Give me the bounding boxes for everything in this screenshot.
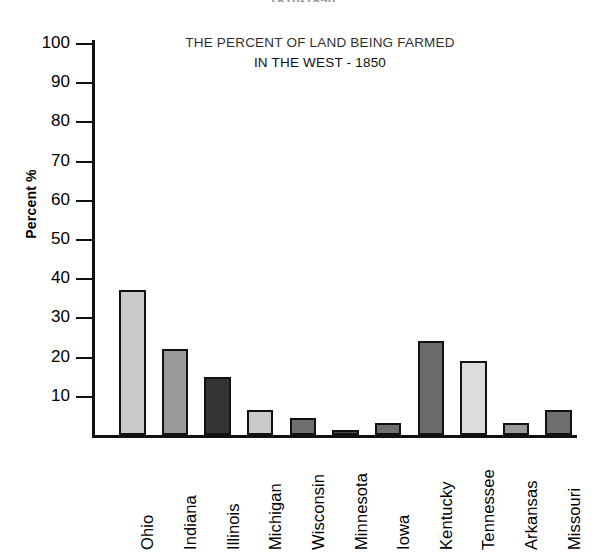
y-tick-label-50: 50 [26, 229, 70, 249]
y-tick-90: 90 [76, 82, 92, 84]
x-label-kentucky: Kentucky [437, 481, 456, 550]
bar-slot [111, 40, 154, 435]
y-tick-80: 80 [76, 121, 92, 123]
y-tick-label-20: 20 [26, 347, 70, 367]
cropped-top-header: 1810-1850 [0, 0, 605, 2]
y-tick-60: 60 [76, 200, 92, 202]
bar-slot [367, 40, 410, 435]
bar-series [95, 40, 577, 435]
y-tick-label-10: 10 [26, 386, 70, 406]
bar-michigan[interactable] [247, 410, 273, 435]
x-axis-line [92, 435, 577, 438]
y-tick-50: 50 [76, 239, 92, 241]
x-label-ohio: Ohio [138, 515, 157, 550]
bar-illinois[interactable] [204, 377, 230, 435]
bar-indiana[interactable] [162, 349, 188, 435]
y-tick-label-30: 30 [26, 307, 70, 327]
y-tick-label-40: 40 [26, 268, 70, 288]
plot-area: 102030405060708090100 [92, 40, 577, 438]
bar-missouri[interactable] [545, 410, 571, 435]
chart-figure: 1810-1850 THE PERCENT OF LAND BEING FARM… [0, 0, 605, 560]
y-tick-label-90: 90 [26, 72, 70, 92]
x-label-michigan: Michigan [266, 483, 285, 550]
x-axis-category-labels: OhioIndianaIllinoisMichiganWisconsinMinn… [95, 444, 580, 556]
x-label-missouri: Missouri [565, 488, 584, 550]
y-tick-label-80: 80 [26, 111, 70, 131]
y-tick-label-60: 60 [26, 190, 70, 210]
bar-slot [537, 40, 580, 435]
bar-wisconsin[interactable] [290, 418, 316, 435]
y-tick-20: 20 [76, 357, 92, 359]
x-label-tennessee: Tennessee [479, 469, 498, 550]
bar-minnesota[interactable] [332, 430, 358, 435]
bar-tennessee[interactable] [460, 361, 486, 435]
bar-slot [154, 40, 197, 435]
y-tick-label-100: 100 [26, 33, 70, 53]
y-tick-40: 40 [76, 278, 92, 280]
x-label-wisconsin: Wisconsin [309, 474, 328, 550]
y-tick-label-70: 70 [26, 151, 70, 171]
y-tick-30: 30 [76, 317, 92, 319]
bar-slot [495, 40, 538, 435]
bar-arkansas[interactable] [503, 423, 529, 435]
bar-ohio[interactable] [119, 290, 145, 435]
bar-kentucky[interactable] [418, 341, 444, 435]
bar-slot [239, 40, 282, 435]
x-label-arkansas: Arkansas [522, 480, 541, 550]
y-tick-10: 10 [76, 396, 92, 398]
bar-iowa[interactable] [375, 423, 401, 435]
y-tick-100: 100 [76, 43, 92, 45]
bar-slot [452, 40, 495, 435]
x-label-iowa: Iowa [394, 515, 413, 550]
x-label-illinois: Illinois [224, 503, 243, 550]
x-label-indiana: Indiana [181, 495, 200, 550]
bar-slot [282, 40, 325, 435]
y-tick-70: 70 [76, 161, 92, 163]
bar-slot [196, 40, 239, 435]
x-label-minnesota: Minnesota [352, 473, 371, 550]
bar-slot [324, 40, 367, 435]
bar-slot [409, 40, 452, 435]
